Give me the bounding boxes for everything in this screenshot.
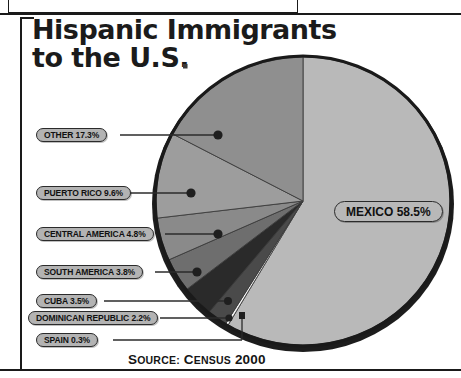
source-value-rest: ENSUS [194,354,231,366]
callout-puerto-rico[interactable]: PUERTO RICO 9.6% [36,186,131,200]
callout-cuba[interactable]: CUBA 3.5% [36,294,97,308]
source-prefix-cap: S [128,352,137,367]
source-credit: SOURCE: CENSUS 2000 [128,352,266,367]
title-line-1: Hispanic Immigrants [32,14,336,45]
infographic-canvas: Hispanic Immigrants to the U.S. [0,0,461,378]
callout-dominican-republic[interactable]: DOMINICAN REPUBLIC 2.2% [28,311,158,325]
header-frame-box [8,0,298,13]
callout-other[interactable]: OTHER 17.3% [36,128,107,142]
callout-central-america[interactable]: CENTRAL AMERICA 4.8% [36,227,154,241]
source-year: 2000 [235,352,266,367]
source-prefix-rest: OURCE: [137,354,180,366]
left-border-rule [20,17,22,369]
source-value-cap: C [184,352,194,367]
callout-south-america[interactable]: SOUTH AMERICA 3.8% [36,265,143,279]
bottom-border-rule [0,369,461,371]
callout-spain[interactable]: SPAIN 0.3% [36,333,98,347]
callout-mexico[interactable]: MEXICO 58.5% [334,201,443,222]
